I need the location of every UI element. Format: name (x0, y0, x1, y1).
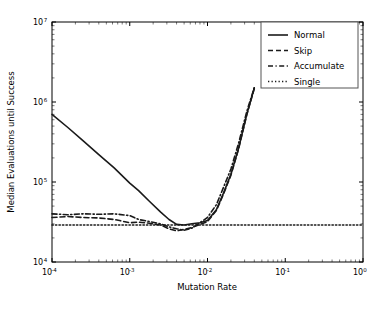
series-line-skip (52, 88, 254, 230)
legend-label-accumulate: Accumulate (294, 61, 344, 71)
chart-canvas: 10-410-310-210-1100 104105106107 Mutatio… (0, 0, 384, 309)
svg-text:7: 7 (44, 17, 48, 23)
svg-text:10: 10 (33, 18, 43, 27)
series-line-normal (52, 88, 254, 225)
svg-text:10: 10 (33, 258, 43, 267)
x-tick-label: 10-2 (197, 267, 212, 278)
x-tick-label: 10-4 (42, 267, 57, 278)
y-axis-tick-labels: 104105106107 (33, 17, 48, 268)
legend-label-normal: Normal (294, 30, 325, 40)
x-tick-label: 100 (353, 267, 367, 278)
y-tick-label: 106 (33, 97, 48, 108)
y-tick-label: 107 (33, 17, 48, 28)
chart-figure: 10-410-310-210-1100 104105106107 Mutatio… (0, 0, 384, 309)
svg-text:-4: -4 (51, 267, 57, 273)
x-tick-label: 10-1 (275, 267, 290, 278)
y-tick-label: 104 (33, 257, 48, 268)
x-axis-title: Mutation Rate (177, 282, 237, 292)
svg-text:0: 0 (363, 267, 367, 273)
svg-text:10: 10 (33, 98, 43, 107)
y-tick-label: 105 (33, 177, 48, 188)
x-tick-label: 10-3 (120, 267, 135, 278)
svg-text:10: 10 (353, 268, 363, 277)
svg-text:10: 10 (33, 178, 43, 187)
svg-text:4: 4 (44, 257, 48, 263)
svg-text:-1: -1 (285, 267, 290, 273)
y-axis-title: Median Evaluations until Success (6, 71, 16, 213)
svg-text:-2: -2 (207, 267, 212, 273)
legend-label-skip: Skip (294, 46, 312, 56)
svg-text:-3: -3 (129, 267, 135, 273)
chart-legend: NormalSkipAccumulateSingle (261, 22, 358, 88)
x-axis-tick-labels: 10-410-310-210-1100 (42, 267, 367, 278)
data-series-group (52, 87, 363, 230)
legend-label-single: Single (294, 77, 320, 87)
svg-text:5: 5 (44, 177, 48, 183)
series-line-accumulate (52, 87, 254, 230)
svg-text:6: 6 (44, 97, 48, 103)
